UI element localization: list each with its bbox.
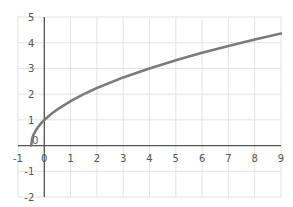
y-tick-label: 2 xyxy=(28,89,34,100)
x-tick-label: 5 xyxy=(173,153,179,164)
x-tick-label: 2 xyxy=(94,153,100,164)
y-tick-label: -1 xyxy=(24,166,34,177)
y-tick-label: 5 xyxy=(28,12,34,23)
x-tick-label: 7 xyxy=(225,153,231,164)
y-tick-label: 4 xyxy=(28,38,34,49)
y-tick-label: 1 xyxy=(28,115,34,126)
data-series-curve xyxy=(31,34,281,146)
y-tick-labels: -2-1123450 xyxy=(24,12,38,203)
x-tick-label: 4 xyxy=(146,153,152,164)
x-tick-label: 9 xyxy=(278,153,284,164)
x-tick-label: 6 xyxy=(199,153,205,164)
line-chart: -10123456789 -2-1123450 xyxy=(0,0,293,207)
y-tick-label: -2 xyxy=(24,192,34,203)
x-tick-label: 3 xyxy=(120,153,126,164)
x-tick-label: 8 xyxy=(252,153,258,164)
y-tick-label: 3 xyxy=(28,63,34,74)
x-tick-label: 1 xyxy=(67,153,73,164)
x-tick-labels: -10123456789 xyxy=(13,153,284,164)
x-tick-label: 0 xyxy=(41,153,47,164)
x-tick-label: -1 xyxy=(13,153,23,164)
